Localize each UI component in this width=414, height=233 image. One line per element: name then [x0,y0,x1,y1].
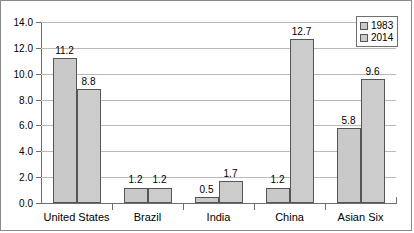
x-tick [183,203,184,210]
bar [219,181,243,203]
bar-value-label: 12.7 [292,26,311,37]
bar-value-label: 8.8 [82,76,96,87]
legend-label: 1983 [371,21,393,31]
legend-swatch-icon [360,22,368,30]
legend-label: 2014 [371,33,393,43]
bar [124,188,148,204]
bar [77,89,101,203]
chart-legend: 1983 2014 [356,16,398,47]
bar-value-label: 1.2 [153,174,167,185]
bar [53,58,77,203]
gridline [41,48,396,49]
gridline [41,22,396,23]
y-axis-tick-label: 12.0 [14,42,33,53]
gridline [41,74,396,75]
bar-value-label: 0.5 [200,184,214,195]
bar-value-label: 1.2 [129,174,143,185]
x-tick [254,203,255,210]
bar [266,188,290,204]
legend-item-1983: 1983 [360,20,393,31]
x-axis-category-label: China [275,211,304,223]
y-axis-tick-label: 6.0 [19,120,33,131]
y-axis-tick-label: 14.0 [14,17,33,28]
y-axis-tick-label: 0.0 [19,198,33,209]
y-axis-tick-label: 4.0 [19,146,33,157]
bar-value-label: 9.6 [366,66,380,77]
y-axis-tick-label: 2.0 [19,172,33,183]
plot-area: 0.02.04.06.08.010.012.014.0 11.28.81.21.… [41,22,396,203]
x-axis-right-cap [396,197,397,204]
bar [290,39,314,203]
x-tick [325,203,326,210]
y-axis-tick-label: 10.0 [14,68,33,79]
legend-swatch-icon [360,34,368,42]
bar-value-label: 11.2 [55,45,74,56]
y-axis-tick-label: 8.0 [19,94,33,105]
x-axis-category-label: United States [43,211,109,223]
x-axis-category-label: Brazil [134,211,162,223]
x-axis-category-label: India [207,211,231,223]
x-tick [112,203,113,210]
x-axis-line [41,203,397,204]
x-axis-category-label: Asian Six [338,211,384,223]
bar-value-label: 5.8 [342,115,356,126]
bar-value-label: 1.7 [224,168,238,179]
bar [361,79,385,203]
bar [195,197,219,203]
bar-value-label: 1.2 [271,174,285,185]
bar [148,188,172,204]
legend-item-2014: 2014 [360,32,393,43]
bar [337,128,361,203]
chart-figure: 0.02.04.06.08.010.012.014.0 11.28.81.21.… [0,0,412,231]
